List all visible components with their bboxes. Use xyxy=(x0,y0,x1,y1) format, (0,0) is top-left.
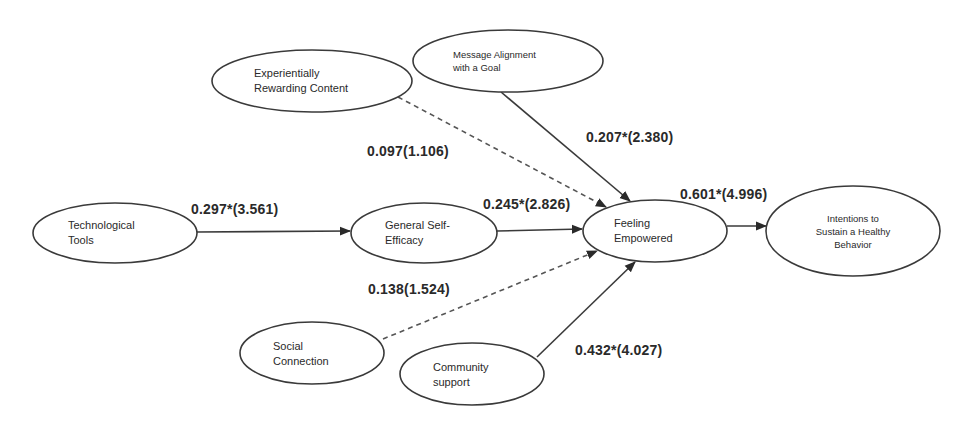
node-label-community-support: Community support xyxy=(433,360,489,390)
label-line: Tools xyxy=(68,233,135,248)
edge-label-empowered-to-intentions: 0.601*(4.996) xyxy=(680,186,767,202)
label-line: Sustain a Healthy xyxy=(790,225,916,238)
edge-technological-to-self-efficacy xyxy=(196,231,350,232)
label-line: with a Goal xyxy=(453,61,536,74)
node-label-general-self-efficacy: General Self- Efficacy xyxy=(385,218,450,248)
node-label-intentions: Intentions to Sustain a Healthy Behavior xyxy=(790,212,916,251)
edge-label-self-efficacy-to-empowered: 0.245*(2.826) xyxy=(483,196,570,212)
edge-label-experiential-to-empowered: 0.097(1.106) xyxy=(367,143,449,159)
label-line: Intentions to xyxy=(790,212,916,225)
edge-label-social-to-empowered: 0.138(1.524) xyxy=(368,281,450,297)
label-line: Connection xyxy=(273,354,329,369)
label-line: Technological xyxy=(68,218,135,233)
node-label-feeling-empowered: Feeling Empowered xyxy=(614,216,673,246)
label-line: Community xyxy=(433,360,489,375)
label-line: Efficacy xyxy=(385,233,450,248)
edge-label-message-to-empowered: 0.207*(2.380) xyxy=(586,129,673,145)
label-line: support xyxy=(433,375,489,390)
label-line: Behavior xyxy=(790,238,916,251)
edge-self-efficacy-to-empowered xyxy=(497,229,582,231)
edge-label-technological-to-self-efficacy: 0.297*(3.561) xyxy=(191,201,278,217)
label-line: Empowered xyxy=(614,231,673,246)
label-line: Social xyxy=(273,339,329,354)
label-line: Message Alignment xyxy=(453,48,536,61)
edge-message-to-empowered xyxy=(501,92,630,201)
node-label-social-connection: Social Connection xyxy=(273,339,329,369)
label-line: Experientially xyxy=(254,66,348,81)
node-label-experiential-content: Experientially Rewarding Content xyxy=(254,66,348,96)
label-line: Rewarding Content xyxy=(254,81,348,96)
label-line: Feeling xyxy=(614,216,673,231)
node-label-technological-tools: Technological Tools xyxy=(68,218,135,248)
label-line: General Self- xyxy=(385,218,450,233)
node-label-message-alignment: Message Alignment with a Goal xyxy=(453,48,536,74)
edge-label-community-to-empowered: 0.432*(4.027) xyxy=(575,342,662,358)
